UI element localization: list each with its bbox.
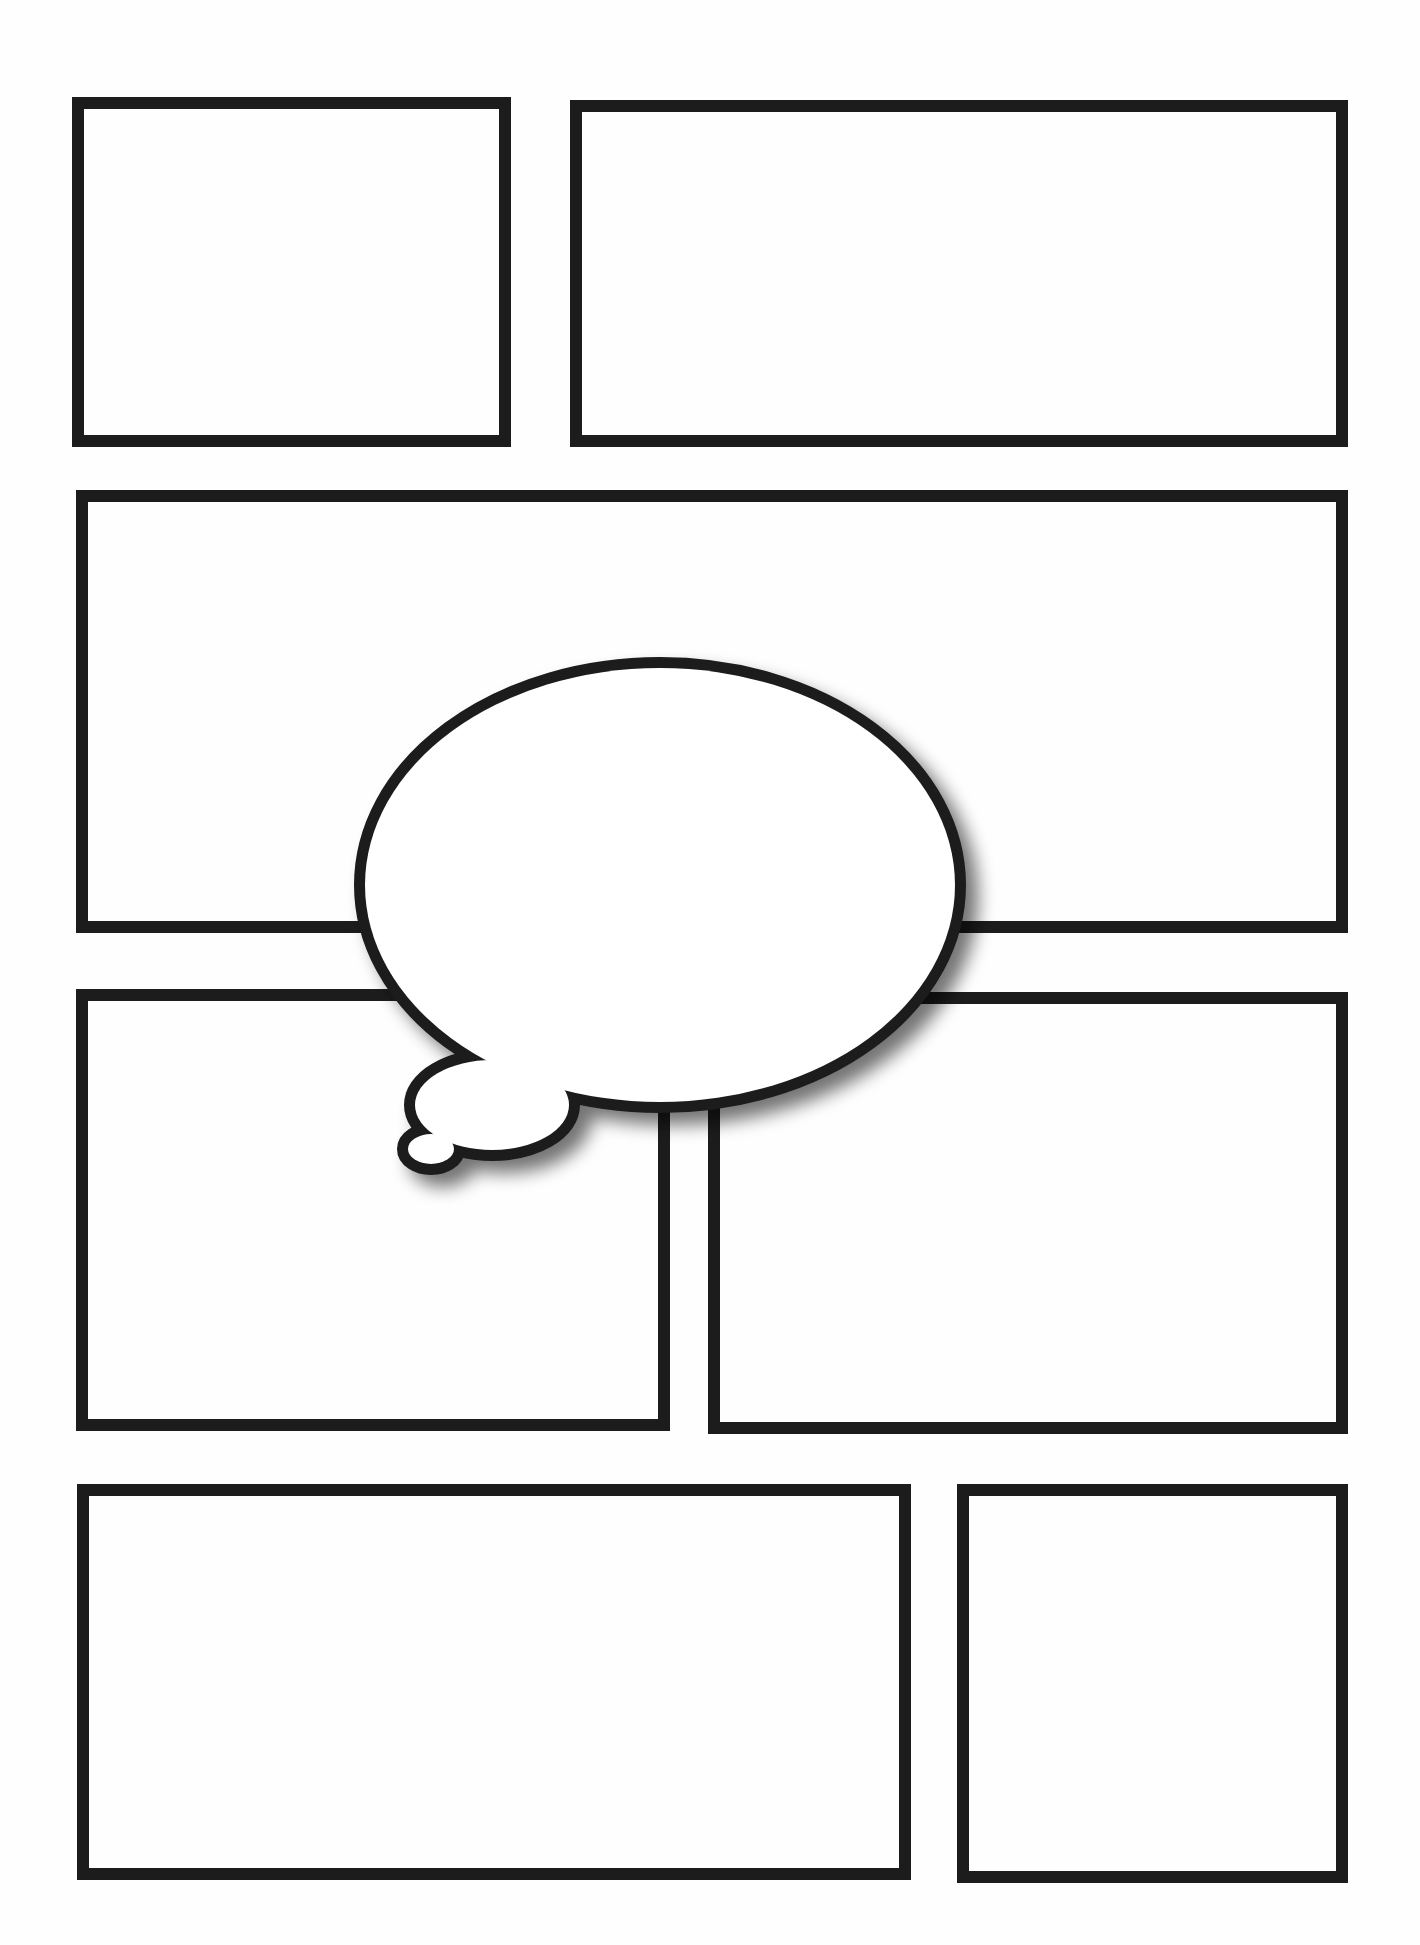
comic-panel-2[interactable] xyxy=(570,100,1348,447)
comic-page-template xyxy=(0,0,1420,1945)
comic-panel-6[interactable] xyxy=(77,1484,911,1880)
thought-bubble-main[interactable] xyxy=(365,668,955,1102)
comic-panel-1[interactable] xyxy=(72,97,511,447)
thought-bubble-small[interactable] xyxy=(408,1134,454,1164)
comic-panel-7[interactable] xyxy=(957,1484,1348,1883)
